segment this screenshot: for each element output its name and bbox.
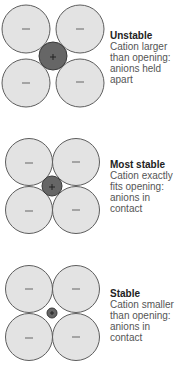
label-line: Cation smaller <box>110 299 176 310</box>
label-line: than opening: <box>110 52 176 63</box>
label-line: anions in <box>110 192 176 203</box>
label-line: contact <box>110 332 176 343</box>
cation <box>42 176 62 196</box>
anion <box>53 187 100 234</box>
label-unstable: Unstable Cation larger than opening: ani… <box>110 30 176 85</box>
label-line: than opening: <box>110 310 176 321</box>
cation <box>47 308 57 318</box>
label-stable: Stable Cation smaller than opening: anio… <box>110 288 176 343</box>
panel-most-stable-diagram <box>6 139 100 234</box>
anion <box>6 266 53 313</box>
label-line: Cation larger <box>110 41 176 52</box>
label-title: Unstable <box>110 30 176 41</box>
label-line: fits opening: <box>110 181 176 192</box>
label-most-stable: Most stable Cation exactly fits opening:… <box>110 159 176 214</box>
label-line: contact <box>110 203 176 214</box>
anion <box>53 314 100 361</box>
label-title: Stable <box>110 288 176 299</box>
anion <box>53 266 100 313</box>
label-line: anions held <box>110 63 176 74</box>
label-line: anions in <box>110 321 176 332</box>
anion <box>53 139 100 186</box>
anion <box>6 314 53 361</box>
label-title: Most stable <box>110 159 176 170</box>
panel-unstable-diagram <box>2 5 104 107</box>
label-line: apart <box>110 74 176 85</box>
label-line: Cation exactly <box>110 170 176 181</box>
cation <box>39 42 67 70</box>
panel-stable-diagram <box>6 266 100 361</box>
